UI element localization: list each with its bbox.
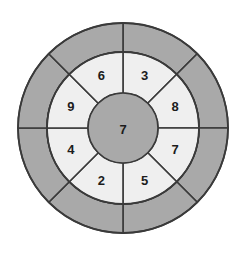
wheel-diagram: 387524967 <box>0 0 245 256</box>
wheel-diagram-canvas: 387524967 <box>0 0 245 256</box>
center-disc-shape[interactable] <box>88 93 158 163</box>
